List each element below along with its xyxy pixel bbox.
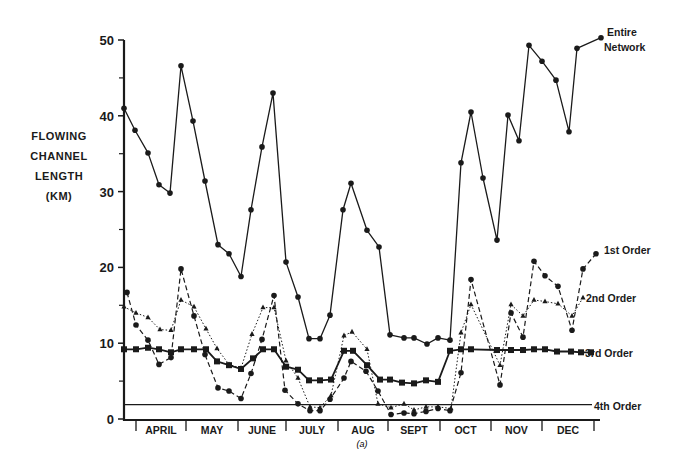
figure-caption: (a): [357, 439, 368, 449]
data-point-circle: [124, 290, 130, 296]
data-point-circle: [248, 207, 254, 213]
data-point-circle: [505, 112, 511, 118]
data-point-square: [399, 380, 405, 386]
data-point-circle: [271, 293, 277, 299]
data-point-square: [191, 346, 197, 352]
data-point-square: [238, 366, 244, 372]
data-point-square: [350, 348, 356, 354]
data-point-circle: [178, 266, 184, 272]
data-point-square: [226, 362, 232, 368]
series-line: [124, 38, 601, 344]
data-point-square: [423, 377, 429, 383]
data-point-triangle: [178, 297, 183, 302]
data-point-triangle: [145, 314, 150, 319]
data-point-square: [578, 349, 584, 355]
data-point-circle: [295, 401, 301, 407]
data-point-circle: [215, 385, 221, 391]
data-point-triangle: [555, 301, 560, 306]
data-point-triangle: [157, 327, 162, 332]
data-point-circle: [520, 334, 526, 340]
series-label-4th-order: 4th Order: [594, 400, 641, 412]
data-point-square: [203, 346, 209, 352]
data-point-circle: [191, 313, 197, 319]
y-axis-label-line: LENGTH: [28, 166, 90, 186]
data-point-triangle: [508, 302, 513, 307]
data-point-square: [387, 377, 393, 383]
data-point-circle: [156, 182, 162, 188]
axes: 01020304050APRILMAYJUNEJULYAUGSEPTOCTNOV…: [100, 33, 600, 436]
series-label-entire-network: Entire: [607, 26, 637, 38]
y-tick-label: 30: [100, 185, 114, 200]
data-point-square: [458, 346, 464, 352]
data-point-circle: [375, 388, 381, 394]
data-point-triangle: [271, 305, 276, 310]
data-point-circle: [340, 207, 346, 213]
data-point-square: [271, 346, 277, 352]
y-tick-label: 50: [100, 33, 114, 48]
series-line: [127, 254, 596, 415]
data-point-circle: [411, 411, 417, 417]
data-point-circle: [167, 190, 173, 196]
data-point-circle: [555, 284, 561, 290]
data-point-circle: [202, 178, 208, 184]
month-label-may: MAY: [201, 424, 223, 436]
data-point-circle: [270, 90, 276, 96]
data-point-triangle: [328, 393, 333, 398]
data-point-square: [121, 346, 127, 352]
data-point-square: [145, 345, 151, 351]
y-tick-label: 20: [100, 260, 114, 275]
series-line: [124, 348, 591, 384]
data-point-circle: [238, 396, 244, 402]
y-axis-label: FLOWING CHANNEL LENGTH (KM): [28, 126, 90, 206]
data-point-square: [554, 349, 560, 355]
data-point-circle: [327, 396, 333, 402]
data-point-circle: [364, 227, 370, 233]
data-point-circle: [132, 127, 138, 133]
data-point-square: [364, 362, 370, 368]
data-point-circle: [341, 375, 347, 381]
data-point-triangle: [497, 362, 502, 367]
data-point-circle: [121, 105, 127, 111]
data-point-circle: [387, 332, 393, 338]
data-point-circle: [178, 63, 184, 69]
month-label-june: JUNE: [248, 424, 276, 436]
data-point-triangle: [349, 329, 354, 334]
data-point-circle: [401, 410, 407, 416]
data-point-circle: [423, 409, 429, 415]
series-labels: EntireNetwork1st Order2nd Order3rd Order…: [585, 26, 651, 412]
data-point-square: [411, 380, 417, 386]
data-point-circle: [458, 370, 464, 376]
y-axis-label-line: CHANNEL: [28, 146, 90, 166]
month-label-aug: AUG: [351, 424, 374, 436]
data-point-triangle: [468, 302, 473, 307]
data-point-square: [328, 377, 334, 383]
data-point-circle: [526, 43, 532, 49]
data-point-circle: [327, 312, 333, 318]
data-point-circle: [411, 335, 417, 341]
data-point-circle: [598, 35, 604, 41]
data-point-circle: [553, 77, 559, 83]
data-point-square: [468, 346, 474, 352]
data-point-triangle: [411, 407, 416, 412]
data-point-triangle: [580, 295, 585, 300]
data-point-square: [168, 349, 174, 355]
data-point-circle: [574, 46, 580, 52]
data-point-circle: [295, 294, 301, 300]
data-point-triangle: [214, 346, 219, 351]
data-point-circle: [282, 387, 288, 393]
series-label-2nd-order: 2nd Order: [586, 292, 636, 304]
series-layer: [121, 35, 604, 417]
data-point-circle: [248, 371, 254, 377]
series-label-entire-network: Network: [604, 41, 646, 53]
data-point-square: [447, 348, 453, 354]
series-entire-network: [121, 35, 604, 347]
data-point-circle: [468, 109, 474, 115]
month-label-april: APRIL: [145, 424, 177, 436]
data-point-square: [531, 346, 537, 352]
data-point-triangle: [249, 331, 254, 336]
data-point-circle: [363, 368, 369, 374]
month-label-july: JULY: [299, 424, 325, 436]
data-point-circle: [307, 408, 313, 414]
series-label-3rd-order: 3rd Order: [585, 347, 633, 359]
data-point-circle: [401, 335, 407, 341]
